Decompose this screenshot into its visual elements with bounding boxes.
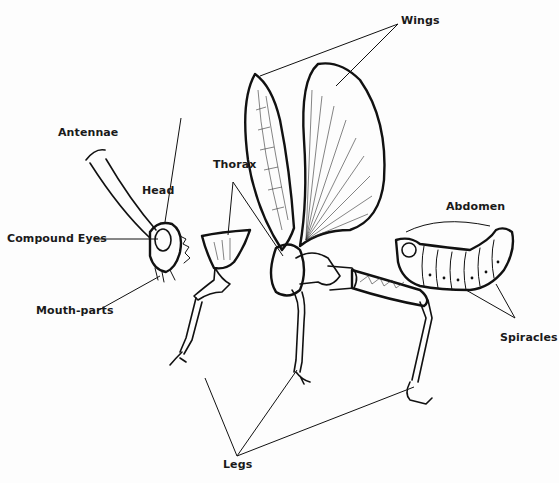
label-head: Head	[142, 184, 174, 197]
label-wings: Wings	[401, 14, 440, 27]
label-spiracles: Spiracles	[500, 331, 558, 344]
hind-femur	[352, 270, 427, 306]
thorax-piece	[202, 230, 250, 268]
hindwing	[300, 63, 385, 246]
label-legs: Legs	[223, 458, 252, 471]
label-antennae: Antennae	[58, 126, 118, 139]
middle-leg	[292, 290, 310, 384]
label-compound-eyes: Compound Eyes	[7, 232, 107, 245]
compound-eye	[155, 229, 171, 251]
insect-anatomy-diagram: Wings Antennae Head Thorax Abdomen Compo…	[0, 0, 559, 483]
label-thorax: Thorax	[213, 158, 256, 171]
label-abdomen: Abdomen	[446, 200, 505, 213]
thorax-body	[271, 244, 357, 295]
leader-lines	[94, 24, 515, 456]
head-part	[150, 223, 190, 282]
label-mouth-parts: Mouth-parts	[36, 304, 114, 317]
front-leg	[170, 268, 230, 365]
abdomen-part	[396, 228, 513, 290]
